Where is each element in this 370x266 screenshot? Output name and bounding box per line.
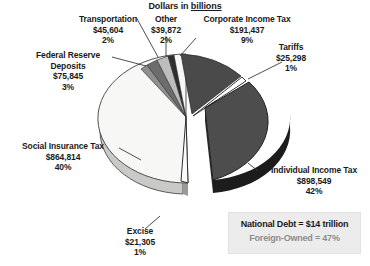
pie-chart-figure: Dollars in billions [0, 0, 370, 266]
label-other-value: $39,872 [134, 25, 198, 36]
label-social-percent: 40% [8, 162, 118, 173]
label-tariffs: Tariffs $25,298 1% [258, 42, 324, 74]
label-individual-name: Individual Income Tax [262, 165, 366, 176]
national-debt-text: National Debt = $14 trillion [229, 218, 360, 231]
label-federal-reserve-value: $75,845 [24, 71, 112, 82]
label-federal-reserve-name-line2: Deposits [24, 61, 112, 72]
national-debt-note-box: National Debt = $14 trillion Foreign-Own… [228, 212, 361, 254]
label-individual-value: $898,549 [262, 176, 366, 187]
label-corporate-value: $191,437 [192, 25, 302, 36]
label-other-name: Other [134, 14, 198, 25]
label-corporate-income-tax: Corporate Income Tax $191,437 9% [192, 14, 302, 46]
label-social-name: Social Insurance Tax [8, 141, 118, 152]
label-excise-percent: 1% [110, 247, 170, 258]
label-excise: Excise $21,305 1% [110, 226, 170, 258]
label-tariffs-percent: 1% [258, 63, 324, 74]
label-social-insurance-tax: Social Insurance Tax $864,814 40% [8, 141, 118, 173]
label-federal-reserve-name-line1: Federal Reserve [24, 50, 112, 61]
label-corporate-name: Corporate Income Tax [192, 14, 302, 25]
label-excise-name: Excise [110, 226, 170, 237]
foreign-owned-text: Foreign-Owned = 47% [229, 231, 360, 245]
label-other-percent: 2% [134, 35, 198, 46]
label-individual-income-tax: Individual Income Tax $898,549 42% [262, 165, 366, 197]
label-other: Other $39,872 2% [134, 14, 198, 46]
label-excise-value: $21,305 [110, 237, 170, 248]
label-individual-percent: 42% [262, 186, 366, 197]
label-federal-reserve-percent: 3% [24, 82, 112, 93]
label-federal-reserve-deposits: Federal Reserve Deposits $75,845 3% [24, 50, 112, 92]
label-tariffs-name: Tariffs [258, 42, 324, 53]
label-social-value: $864,814 [8, 152, 118, 163]
label-tariffs-value: $25,298 [258, 53, 324, 64]
